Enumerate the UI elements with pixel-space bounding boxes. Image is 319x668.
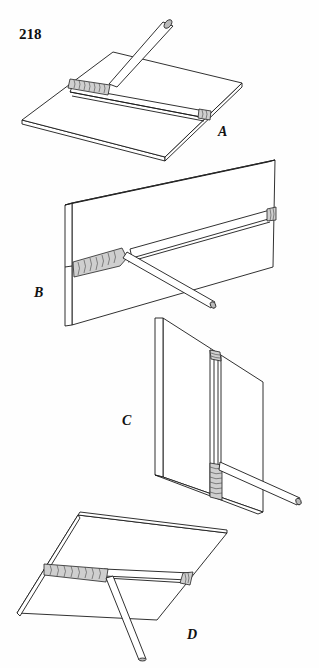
figure-label-c: C [122,413,131,429]
figure-c-drawing [155,318,302,514]
figure-label-b: B [34,285,43,301]
welding-positions-illustration [0,0,319,668]
book-page: 218 [0,0,319,668]
figure-a-drawing [22,18,242,161]
weld-bead-a-right [198,109,211,120]
figure-label-d: D [187,627,197,643]
figure-b-drawing [65,160,276,326]
figure-label-a: A [218,124,227,140]
weld-bead-c-top [210,350,221,361]
weld-bead-b-right [267,207,276,221]
